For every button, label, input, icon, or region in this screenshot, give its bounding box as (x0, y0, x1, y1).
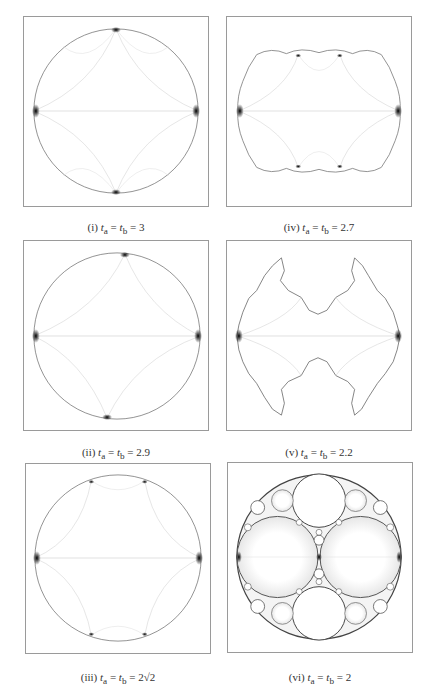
subscript-a: a (101, 451, 105, 461)
figure-panel-i (23, 16, 209, 207)
caption-value: = 2.9 (127, 446, 150, 458)
caption-number: (iv) (284, 221, 300, 233)
subscript-a: a (103, 676, 107, 686)
subscript-a: a (311, 676, 315, 686)
running-head (60, 0, 360, 6)
caption-number: (ii) (82, 446, 95, 458)
caption-v: (v) ta = tb = 2.2 (219, 446, 419, 462)
subscript-a: a (304, 451, 308, 461)
caption-vi: (vi) ta = tb = 2 (220, 671, 420, 687)
caption-value: = 2.2 (330, 446, 353, 458)
caption-value: = 2√2 (129, 671, 155, 683)
figure-panel-v (226, 240, 412, 431)
subscript-b: b (123, 226, 128, 236)
caption-number: (v) (285, 446, 298, 458)
disk-limit-set-plot (26, 464, 210, 653)
figure-panel-iv (226, 16, 412, 207)
apollonian-gasket-plot (228, 463, 412, 652)
figure-panel-vi (227, 462, 413, 653)
fractal-limit-set-plot (227, 241, 411, 430)
caption-number: (iii) (81, 671, 98, 683)
subscript-b: b (324, 226, 329, 236)
subscript-b: b (323, 451, 328, 461)
caption-value: = 3 (130, 221, 144, 233)
subscript-b: b (329, 676, 334, 686)
caption-ii: (ii) ta = tb = 2.9 (16, 446, 216, 462)
subscript-a: a (305, 226, 309, 236)
subscript-b: b (120, 451, 125, 461)
figure-panel-iii (25, 463, 211, 654)
figure-panel-ii (23, 240, 209, 431)
caption-value: = 2 (337, 671, 351, 683)
caption-number: (vi) (289, 671, 305, 683)
caption-iv: (iv) ta = tb = 2.7 (219, 221, 419, 237)
caption-value: = 2.7 (332, 221, 355, 233)
caption-iii: (iii) ta = tb = 2√2 (18, 671, 218, 687)
caption-i: (i) ta = tb = 3 (16, 221, 216, 237)
quasi-circle-limit-set-plot (227, 17, 411, 206)
disk-limit-set-plot (24, 241, 208, 430)
caption-number: (i) (88, 221, 98, 233)
subscript-b: b (122, 676, 127, 686)
subscript-a: a (104, 226, 108, 236)
disk-limit-set-plot (24, 17, 208, 206)
